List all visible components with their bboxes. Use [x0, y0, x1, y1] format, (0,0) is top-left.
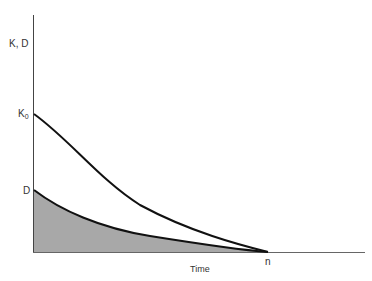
n-tick-label: n: [265, 257, 271, 267]
y-axis-label: K, D: [9, 39, 28, 49]
k0-label-main: K: [18, 108, 25, 119]
d-label: D: [23, 186, 30, 196]
chart-canvas: [0, 0, 372, 281]
k0-label: K0: [18, 109, 29, 119]
k0-label-subscript: 0: [25, 113, 29, 120]
x-axis-label: Time: [190, 265, 210, 274]
